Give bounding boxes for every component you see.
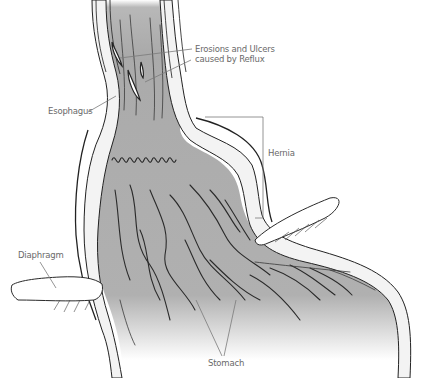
diaphragm-left — [11, 277, 102, 312]
hernia-label: Hernia — [268, 148, 295, 158]
erosions-label-line2: caused by Reflux — [195, 54, 265, 64]
erosions-label-line1: Erosions and Ulcers — [195, 44, 275, 54]
esophagus-label: Esophagus — [48, 106, 93, 116]
hiatal-hernia-diagram: Erosions and Ulcers caused by Reflux Eso… — [0, 0, 425, 378]
diaphragm-label: Diaphragm — [18, 250, 63, 260]
stomach-label: Stomach — [208, 358, 244, 368]
